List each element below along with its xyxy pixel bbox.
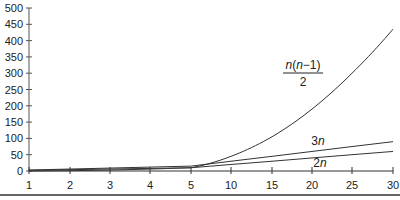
series-lines xyxy=(29,29,393,171)
y-tick-label: 300 xyxy=(5,67,23,79)
series-quadratic-line xyxy=(29,29,393,171)
x-tick-label: 15 xyxy=(266,179,278,191)
y-tick-label: 100 xyxy=(5,132,23,144)
label-2n: 2n xyxy=(313,156,327,170)
y-tick-label: 50 xyxy=(11,149,23,161)
series-2n-line xyxy=(29,151,393,170)
x-tick-label: 20 xyxy=(306,179,318,191)
x-tick-label: 5 xyxy=(188,179,194,191)
quadratic-label-denominator: 2 xyxy=(300,75,307,89)
y-tick-label: 250 xyxy=(5,84,23,96)
x-tick-label: 30 xyxy=(387,179,399,191)
y-tick-label: 400 xyxy=(5,35,23,47)
y-tick-label: 450 xyxy=(5,18,23,30)
y-tick-label: 0 xyxy=(17,165,23,177)
y-tick-label: 150 xyxy=(5,116,23,128)
x-tick-label: 25 xyxy=(346,179,358,191)
quadratic-label-numerator: n(n−1) xyxy=(285,58,320,72)
x-tick-label: 2 xyxy=(67,179,73,191)
y-tick-label: 350 xyxy=(5,51,23,63)
x-tick-label: 3 xyxy=(107,179,113,191)
y-axis: 050100150200250300350400450500 xyxy=(5,2,32,177)
growth-chart: 050100150200250300350400450500 123451015… xyxy=(0,0,400,200)
x-tick-label: 4 xyxy=(147,179,153,191)
y-tick-label: 200 xyxy=(5,100,23,112)
y-tick-label: 500 xyxy=(5,2,23,14)
x-tick-label: 10 xyxy=(225,179,237,191)
label-3n: 3n xyxy=(311,134,325,148)
x-tick-label: 1 xyxy=(26,179,32,191)
